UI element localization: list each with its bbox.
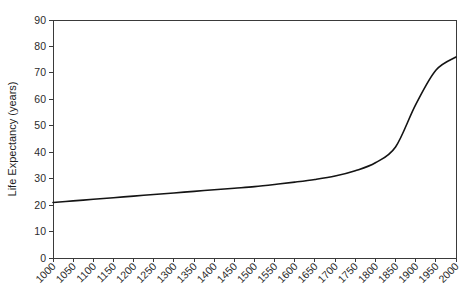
y-tick-label: 60 bbox=[34, 93, 46, 105]
x-axis-ticks bbox=[53, 258, 456, 262]
y-tick-label: 70 bbox=[34, 66, 46, 78]
y-tick-label: 80 bbox=[34, 40, 46, 52]
y-tick-label: 40 bbox=[34, 146, 46, 158]
y-tick-label: 90 bbox=[34, 14, 46, 26]
y-tick-label: 10 bbox=[34, 225, 46, 237]
y-axis-title: Life Expectancy (years) bbox=[6, 82, 18, 197]
y-tick-label: 30 bbox=[34, 172, 46, 184]
y-tick-label: 20 bbox=[34, 199, 46, 211]
y-tick-label: 50 bbox=[34, 119, 46, 131]
life-expectancy-chart: 0102030405060708090 10001050110011501200… bbox=[0, 0, 473, 302]
chart-background bbox=[0, 0, 473, 302]
y-tick-label: 0 bbox=[40, 252, 46, 264]
